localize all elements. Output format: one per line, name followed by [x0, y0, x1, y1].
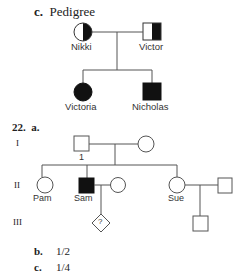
- victor-symbol-icon: [143, 23, 161, 40]
- nicholas-symbol-icon: [143, 83, 161, 100]
- gen1-male-symbol-icon: [74, 136, 89, 151]
- label-gen1-male-number: 1: [79, 152, 84, 162]
- label-nikki: Nikki: [71, 41, 92, 52]
- sue-partner-symbol-icon: [218, 178, 232, 193]
- sue-child-symbol-icon: [193, 216, 208, 231]
- answer-b-value: 1/2: [56, 245, 70, 257]
- label-pam: Pam: [33, 193, 52, 203]
- label-victor: Victor: [139, 41, 163, 52]
- question-number: 22.: [12, 121, 26, 133]
- unknown-child-symbol: ?: [98, 217, 102, 226]
- nikki-symbol-icon: [74, 23, 92, 41]
- victoria-symbol-icon: [74, 83, 92, 101]
- generation-label-3: III: [13, 217, 22, 227]
- answer-b: b. 1/2: [34, 245, 43, 257]
- generation-label-1: I: [16, 138, 19, 148]
- pam-symbol-icon: [37, 177, 53, 193]
- part-a-marker: a.: [31, 121, 39, 133]
- pedigree-22a: [37, 136, 232, 232]
- pedigree-diagrams: [0, 0, 240, 276]
- answer-c-value: 1/4: [56, 261, 70, 273]
- generation-label-2: II: [14, 180, 20, 190]
- gen1-female-symbol-icon: [138, 136, 154, 152]
- label-victoria: Victoria: [65, 101, 97, 112]
- sam-partner-symbol-icon: [111, 178, 126, 193]
- answer-c-marker: c.: [34, 261, 42, 273]
- pedigree-c: [74, 23, 161, 101]
- label-sue: Sue: [168, 193, 184, 203]
- answer-b-marker: b.: [34, 245, 43, 257]
- sam-symbol-icon: [79, 178, 94, 193]
- sue-symbol-icon: [169, 177, 185, 193]
- question-22-header: 22. a.: [12, 121, 40, 133]
- answer-c: c. 1/4: [34, 261, 42, 273]
- label-nicholas: Nicholas: [132, 101, 168, 112]
- label-sam: Sam: [74, 193, 93, 203]
